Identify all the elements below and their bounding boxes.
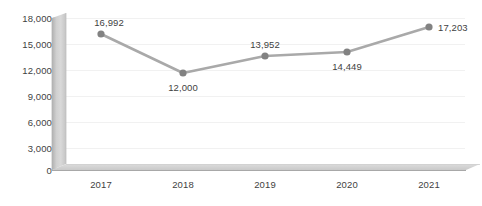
data-label-2018: 12,000 [168,82,198,93]
data-label-2017: 16,992 [94,17,124,28]
data-label-2021: 17,203 [438,22,468,33]
data-label-2020: 14,449 [332,61,362,72]
data-label-2019: 13,952 [250,39,280,50]
data-labels: 16,992 12,000 13,952 14,449 17,203 [0,0,482,206]
line-chart: 0 3,000 6,000 9,000 12,000 15,000 18,000… [0,0,482,206]
